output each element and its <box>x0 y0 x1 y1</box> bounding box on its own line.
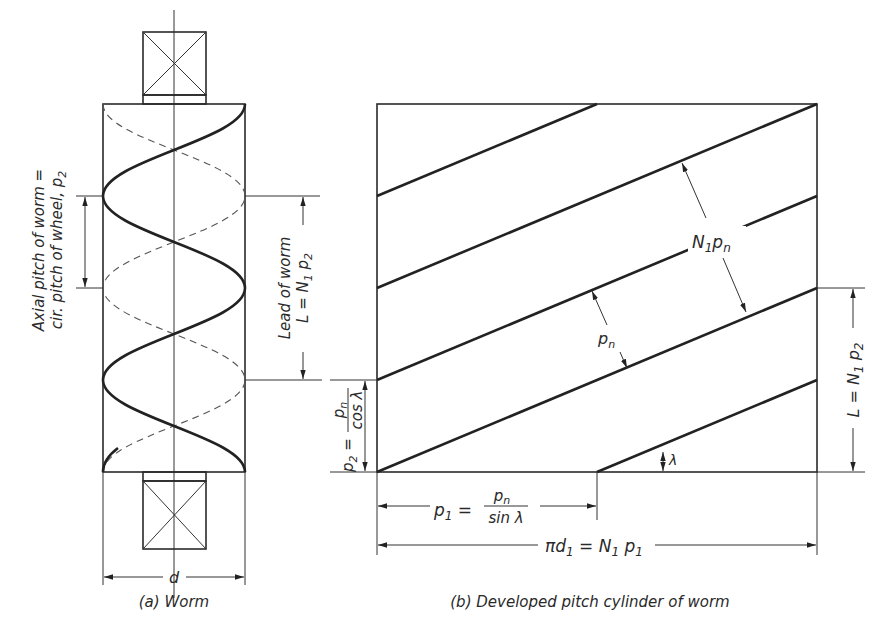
worm-helix-tail <box>103 448 118 472</box>
svg-text:sin λ: sin λ <box>488 509 523 527</box>
panel-b-developed-cylinder: pn N1pn λ p2 = pn cos λ p1 = pn sin λ <box>330 104 866 611</box>
svg-text:L = N1 p2: L = N1 p2 <box>294 253 315 323</box>
lead-label: Lead of worm L = N1 p2 <box>276 237 315 340</box>
caption-a: (a) Worm <box>139 593 209 611</box>
circumference-label: πd1 = N1 p1 <box>545 536 643 559</box>
normal-pitch-label: pn <box>597 329 615 351</box>
svg-text:cir. pitch of wheel, p2: cir. pitch of wheel, p2 <box>48 171 69 330</box>
worm-gear-diagram: d (a) Worm Axial pitch of worm = cir. pi… <box>0 0 889 630</box>
svg-text:p1 =: p1 = <box>433 500 472 523</box>
panel-a-worm: d (a) Worm Axial pitch of worm = cir. pi… <box>30 10 322 611</box>
svg-text:pn: pn <box>493 487 511 507</box>
svg-text:L = N1 p2: L = N1 p2 <box>844 343 866 418</box>
svg-text:pn: pn <box>330 402 350 420</box>
p1-formula: p1 = pn sin λ <box>433 487 528 527</box>
lead-angle-label: λ <box>668 452 677 468</box>
caption-b: (b) Developed pitch cylinder of worm <box>450 593 729 611</box>
lead-right-label: L = N1 p2 <box>844 343 866 418</box>
svg-text:p2 =: p2 = <box>339 438 360 473</box>
p2-formula: p2 = pn cos λ <box>330 388 366 473</box>
axial-pitch-label: Axial pitch of worm = cir. pitch of whee… <box>30 169 69 332</box>
svg-text:Axial pitch of worm =: Axial pitch of worm = <box>30 169 48 332</box>
svg-text:Lead of worm: Lead of worm <box>276 237 294 340</box>
developed-helix-lines <box>377 104 817 472</box>
svg-text:cos λ: cos λ <box>348 391 366 430</box>
diameter-label: d <box>169 568 180 587</box>
